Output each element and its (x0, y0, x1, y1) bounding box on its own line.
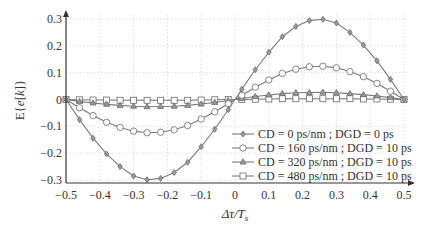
y-tick-label: −0.2 (40, 146, 62, 160)
circle-marker-icon (76, 105, 82, 111)
circle-marker-icon (130, 128, 136, 134)
y-tick-label: 0.2 (47, 39, 62, 53)
square-marker-icon (279, 96, 285, 102)
y-tick-label: 0 (56, 93, 62, 107)
diamond-marker-icon (241, 131, 245, 137)
x-tick-label: −0.2 (157, 188, 179, 202)
x-tick-label: −0.3 (123, 188, 145, 202)
triangle-marker-icon (306, 89, 312, 94)
triangle-marker-icon (293, 90, 299, 95)
x-tick-label: 0 (232, 188, 238, 202)
x-tick-label: −0.1 (190, 188, 212, 202)
legend-item: CD = 480 ps/nm ; DGD = 10 ps (232, 169, 412, 183)
legend-item: CD = 0 ps/nm ; DGD = 0 ps (232, 127, 394, 141)
square-marker-icon (240, 173, 246, 179)
triangle-marker-icon (158, 103, 164, 108)
diamond-marker-icon (334, 20, 338, 26)
circle-marker-icon (306, 64, 312, 70)
x-tick-label: 0.3 (329, 188, 344, 202)
y-axis-arrow-icon (63, 10, 69, 17)
y-tick-label: 0.3 (47, 12, 62, 26)
square-marker-icon (158, 97, 164, 103)
circle-marker-icon (144, 130, 150, 136)
circle-marker-icon (252, 84, 258, 90)
chart: −0.5−0.4−0.3−0.2−0.100.10.20.30.40.5−0.3… (0, 0, 425, 228)
square-marker-icon (144, 97, 150, 103)
legend-item: CD = 160 ps/nm ; DGD = 10 ps (232, 141, 412, 155)
diamond-marker-icon (158, 175, 162, 181)
circle-marker-icon (360, 73, 366, 79)
legend-label: CD = 480 ps/nm ; DGD = 10 ps (258, 169, 412, 183)
x-tick-label: −0.4 (89, 188, 111, 202)
x-tick-label: 0.2 (295, 188, 310, 202)
circle-marker-icon (293, 66, 299, 72)
circle-marker-icon (157, 129, 163, 135)
y-axis-label: E{e[k]} (12, 80, 27, 121)
circle-marker-icon (279, 70, 285, 76)
square-marker-icon (347, 96, 353, 102)
legend-label: CD = 0 ps/nm ; DGD = 0 ps (258, 127, 394, 141)
diamond-marker-icon (131, 173, 135, 179)
diamond-marker-icon (294, 24, 298, 30)
circle-marker-icon (184, 122, 190, 128)
circle-marker-icon (198, 116, 204, 122)
circle-marker-icon (117, 124, 123, 130)
circle-marker-icon (347, 68, 353, 74)
chart-svg: −0.5−0.4−0.3−0.2−0.100.10.20.30.40.5−0.3… (0, 0, 425, 228)
circle-marker-icon (90, 112, 96, 118)
x-axis-label: Δτ/Ts (221, 206, 249, 223)
legend: CD = 0 ps/nm ; DGD = 0 psCD = 160 ps/nm … (232, 127, 412, 183)
legend-label: CD = 160 ps/nm ; DGD = 10 ps (258, 141, 412, 155)
legend-label: CD = 320 ps/nm ; DGD = 10 ps (258, 155, 412, 169)
x-tick-label: 0.1 (261, 188, 276, 202)
y-tick-label: −0.1 (40, 119, 62, 133)
x-tick-label: −0.5 (55, 188, 77, 202)
diamond-marker-icon (172, 169, 176, 175)
x-tick-label: 0.5 (397, 188, 412, 202)
y-tick-label: 0.1 (47, 66, 62, 80)
triangle-marker-icon (240, 159, 246, 164)
circle-marker-icon (387, 88, 393, 94)
circle-marker-icon (212, 109, 218, 115)
square-marker-icon (306, 96, 312, 102)
legend-item: CD = 320 ps/nm ; DGD = 10 ps (232, 155, 412, 169)
circle-marker-icon (171, 127, 177, 133)
circle-marker-icon (333, 65, 339, 71)
diamond-marker-icon (307, 18, 311, 24)
x-tick-label: 0.4 (363, 188, 378, 202)
circle-marker-icon (266, 77, 272, 83)
square-marker-icon (333, 96, 339, 102)
circle-marker-icon (374, 80, 380, 86)
circle-marker-icon (320, 63, 326, 69)
triangle-marker-icon (320, 89, 326, 94)
square-marker-icon (320, 96, 326, 102)
circle-marker-icon (103, 119, 109, 125)
circle-marker-icon (240, 145, 246, 151)
diamond-marker-icon (321, 16, 325, 22)
diamond-marker-icon (145, 177, 149, 183)
square-marker-icon (293, 96, 299, 102)
y-tick-label: −0.3 (40, 173, 62, 187)
